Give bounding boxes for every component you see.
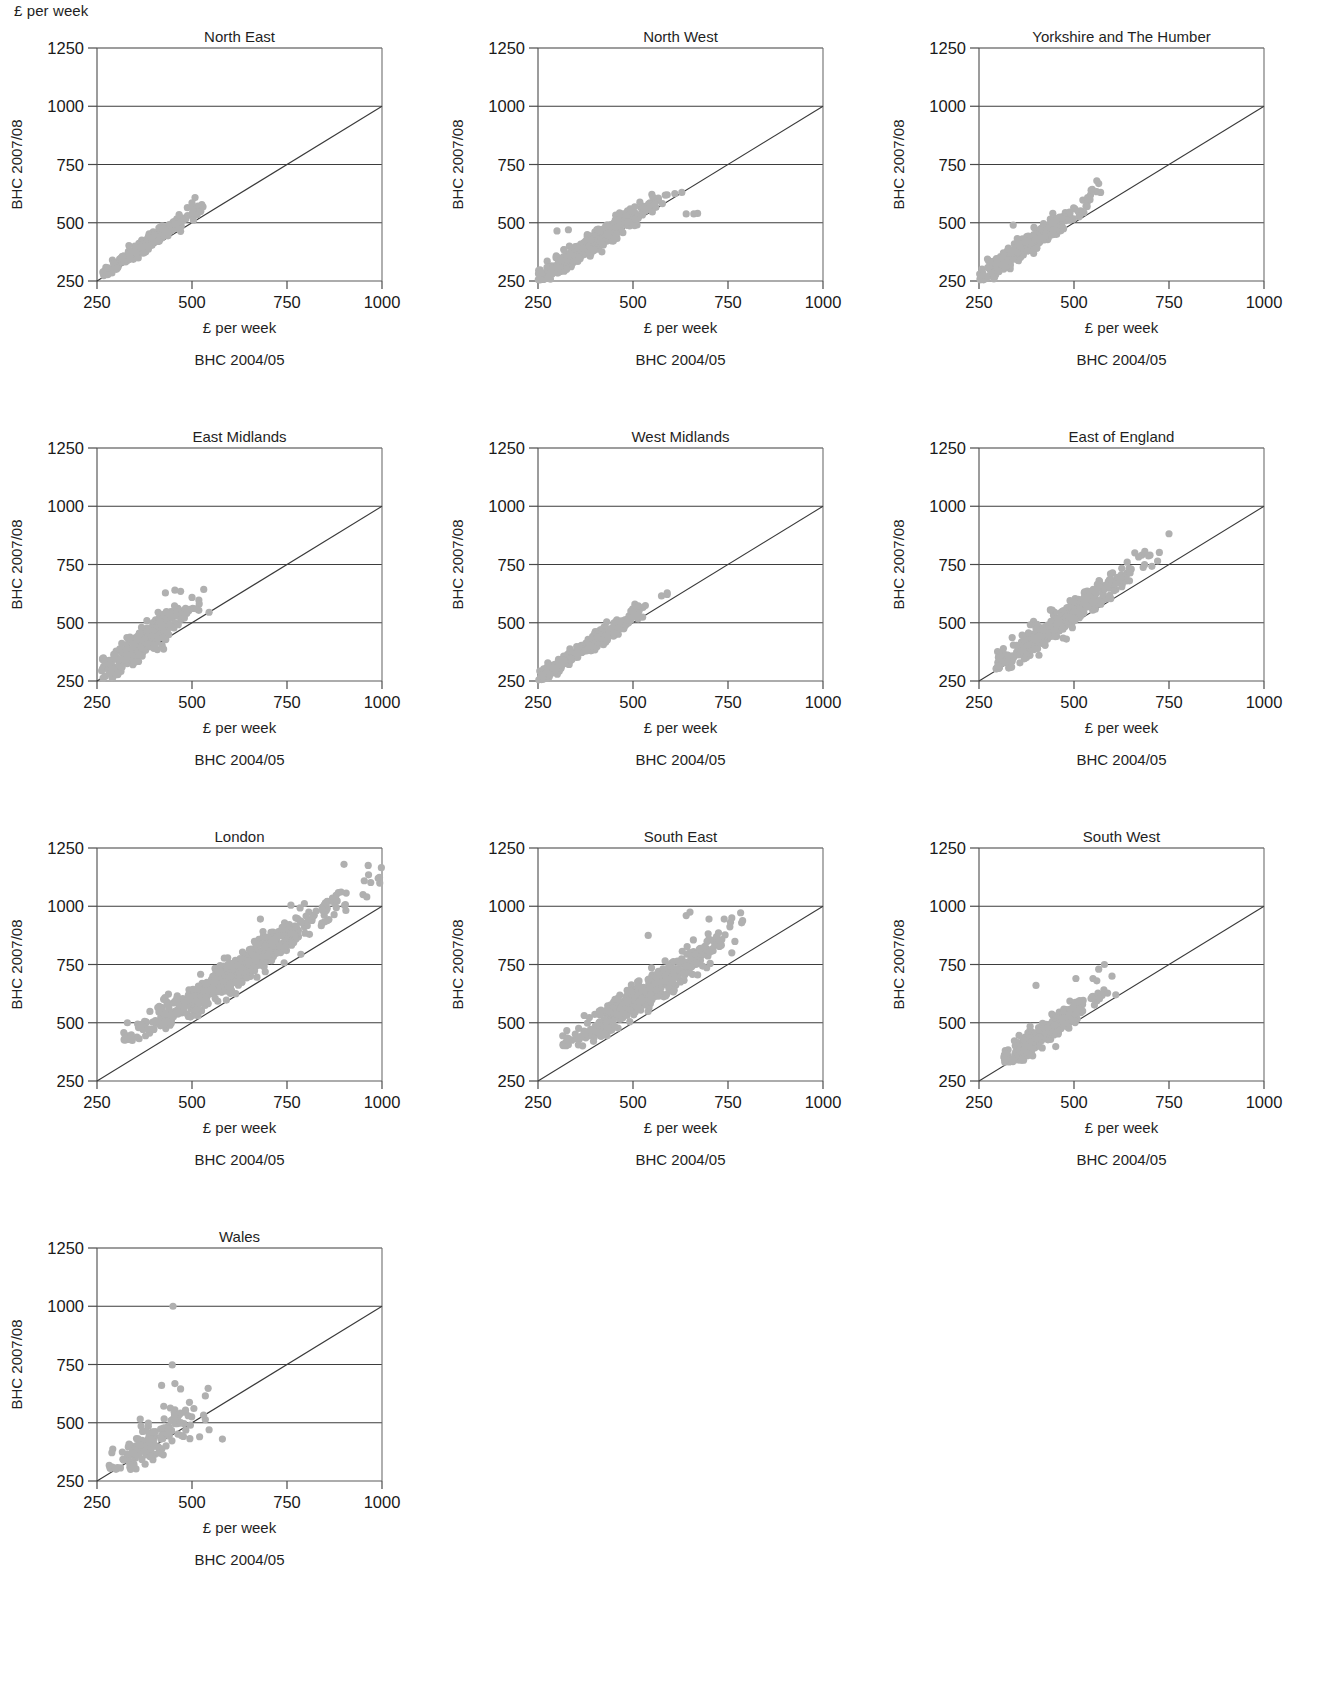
panel-plot: 250500750100012502505007501000South East… [441,826,882,1226]
data-point [288,930,295,937]
scatter-panel: 250500750100012502505007501000London£ pe… [0,826,441,1226]
y-tick-label: 1250 [929,39,966,57]
data-point [127,1461,134,1468]
scatter-panel: 250500750100012502505007501000Yorkshire … [882,26,1323,426]
data-point [1060,1008,1067,1015]
x-tick-label: 250 [83,1093,111,1111]
y-tick-label: 1250 [47,1239,84,1257]
data-point [1103,582,1110,589]
x-tick-label: 250 [524,693,552,711]
x-tick-label: 750 [714,1093,742,1111]
data-point [319,907,326,914]
data-point [162,1011,169,1018]
data-point [611,996,618,1003]
panel-row: 250500750100012502505007501000Wales£ per… [0,1226,1324,1626]
data-point [1023,237,1030,244]
data-point [226,983,233,990]
data-point [551,664,558,671]
data-point [331,911,338,918]
data-point [333,904,340,911]
data-point [1126,577,1133,584]
data-point [335,889,342,896]
data-point [574,257,581,264]
data-point [287,902,294,909]
data-point [180,1003,187,1010]
data-point [143,617,150,624]
data-point-outlier [219,1435,226,1442]
data-point-outlier [645,932,652,939]
data-point [994,255,1001,262]
x-tick-label: 750 [273,293,301,311]
data-point [1041,639,1048,646]
x-axis-caption: BHC 2004/05 [194,751,284,768]
data-point [1027,621,1034,628]
data-point [177,1419,184,1426]
data-point-outlier [340,861,347,868]
panel-inner: 250500750100012502505007501000East Midla… [0,426,441,826]
data-point-outlier [177,1385,184,1392]
data-point [186,994,193,1001]
data-point-outlier [1146,552,1153,559]
x-tick-label: 250 [83,293,111,311]
data-point [155,609,162,616]
data-point [603,230,610,237]
y-tick-label: 1000 [47,897,84,915]
data-point [293,922,300,929]
data-point [598,248,605,255]
data-point [156,618,163,625]
data-point-outlier [169,1361,176,1368]
data-point [612,217,619,224]
data-point [1127,569,1134,576]
data-point-outlier [658,592,665,599]
y-tick-label: 1000 [488,497,525,515]
data-point [128,248,135,255]
panel-inner: 250500750100012502505007501000South East… [441,826,882,1226]
data-point [322,899,329,906]
data-point-outlier [694,210,701,217]
data-point [98,667,105,674]
data-point-outlier [196,1433,203,1440]
x-axis-unit-label: £ per week [203,1519,277,1536]
y-tick-label: 250 [497,272,525,290]
x-tick-label: 500 [619,293,647,311]
x-axis-caption: BHC 2004/05 [194,1551,284,1568]
data-point [251,938,258,945]
data-point [604,1007,611,1014]
data-point [653,973,660,980]
data-point [995,654,1002,661]
y-tick-label: 1000 [47,497,84,515]
data-point [1116,576,1123,583]
data-point [627,615,634,622]
data-point-outlier [1095,180,1102,187]
scatter-panel: 250500750100012502505007501000East Midla… [0,426,441,826]
data-point [731,938,738,945]
data-point [157,1449,164,1456]
data-point [223,996,230,1003]
data-point [567,251,574,258]
data-point [648,964,655,971]
x-axis-caption: BHC 2004/05 [635,351,725,368]
data-point-outlier [994,662,1001,669]
data-point [990,275,997,282]
data-point [136,1035,143,1042]
data-point [601,1030,608,1037]
x-tick-label: 1000 [805,293,842,311]
data-point [228,973,235,980]
data-point [593,1028,600,1035]
data-point [171,1411,178,1418]
data-point [683,962,690,969]
data-point [1016,659,1023,666]
x-axis-unit-label: £ per week [203,1119,277,1136]
data-point [202,993,209,1000]
y-tick-label: 750 [56,956,84,974]
data-point [188,594,195,601]
scatter-panel: 250500750100012502505007501000East of En… [882,426,1323,826]
data-point [186,1435,193,1442]
data-point [198,201,205,208]
data-point [147,1453,154,1460]
data-point [690,936,697,943]
data-point [718,942,725,949]
data-point [146,1008,153,1015]
data-point-outlier [177,228,184,235]
data-point [597,238,604,245]
